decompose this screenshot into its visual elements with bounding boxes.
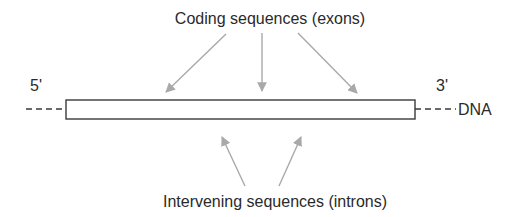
intron-arrows: [222, 137, 301, 186]
exon-arrow-left: [166, 34, 226, 92]
exon-arrows: [166, 33, 357, 93]
dna-strand: [26, 100, 456, 119]
gene-structure-diagram: Coding sequences (exons) 5' 3' DNA Inter…: [0, 0, 516, 217]
intron-arrow-right: [279, 137, 301, 186]
exon-arrow-right: [298, 33, 357, 93]
gene-region-box: [66, 100, 415, 119]
exons-label: Coding sequences (exons): [175, 10, 365, 27]
dna-label: DNA: [458, 101, 492, 118]
introns-label: Intervening sequences (introns): [163, 193, 387, 210]
five-prime-label: 5': [30, 77, 42, 94]
intron-arrow-left: [222, 137, 245, 186]
three-prime-label: 3': [436, 77, 448, 94]
